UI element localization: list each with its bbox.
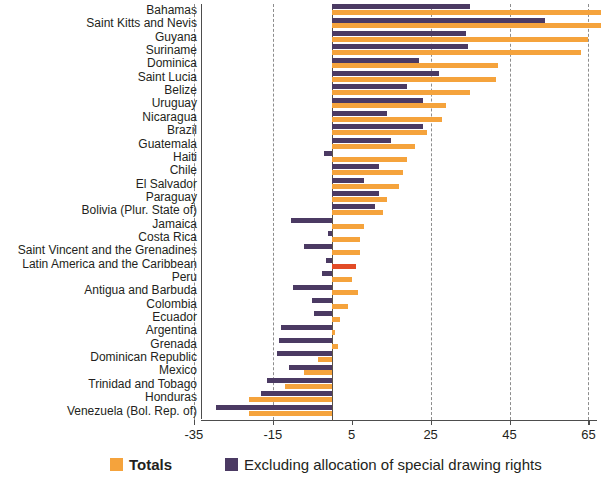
category-label: Dominican Republic (90, 351, 197, 363)
legend-swatch-purple-icon (225, 458, 238, 471)
tick-mark--15 (273, 420, 274, 425)
bar-excluding-sdr (314, 311, 332, 316)
bar-totals (332, 264, 356, 269)
bar-excluding-sdr (332, 71, 439, 76)
bar-row: Dominica (0, 57, 604, 70)
bar-excluding-sdr (326, 258, 332, 263)
bar-excluding-sdr (322, 271, 332, 276)
category-label: Grenada (150, 338, 197, 350)
bar-totals (332, 330, 335, 335)
bar-row: Paraguay (0, 191, 604, 204)
category-label: Saint Vincent and the Grenadines (18, 244, 197, 256)
category-label: Suriname (146, 44, 197, 56)
bar-row: El Salvador (0, 178, 604, 191)
bar-totals (332, 277, 352, 282)
category-label: Antigua and Barbuda (84, 284, 197, 296)
category-label: Haiti (173, 151, 197, 163)
category-label: Colombia (146, 298, 197, 310)
bar-rows: BahamasSaint Kitts and NevisGuyanaSurina… (0, 4, 604, 419)
x-tick-label: 65 (581, 427, 595, 442)
category-label: Uruguay (152, 97, 197, 109)
bar-totals (332, 23, 601, 28)
bar-totals (332, 37, 588, 42)
x-tick-label: -35 (185, 427, 204, 442)
bar-excluding-sdr (332, 4, 470, 9)
bar-totals (332, 117, 442, 122)
bar-totals (332, 50, 581, 55)
bar-row: Brazil (0, 124, 604, 137)
bar-totals (332, 237, 360, 242)
bar-excluding-sdr (267, 378, 332, 383)
bar-totals (332, 317, 340, 322)
category-label: Trinidad and Tobago (88, 378, 197, 390)
bar-totals (332, 130, 427, 135)
bar-row: Nicaragua (0, 111, 604, 124)
category-label: Guyana (155, 31, 197, 43)
category-label: Bolivia (Plur. State of) (82, 204, 197, 216)
bar-chart: -35-155254565 BahamasSaint Kitts and Nev… (0, 0, 604, 479)
bar-excluding-sdr (332, 138, 391, 143)
bar-totals (332, 144, 415, 149)
bar-excluding-sdr (332, 124, 423, 129)
bar-row: Haiti (0, 151, 604, 164)
category-label: Guatemala (138, 138, 197, 150)
bar-excluding-sdr (332, 111, 387, 116)
legend-label-totals: Totals (129, 456, 172, 473)
x-tick-label: 5 (348, 427, 355, 442)
bar-row: Colombia (0, 298, 604, 311)
bar-row: Jamaica (0, 218, 604, 231)
bar-totals (332, 90, 470, 95)
category-label: Dominica (147, 57, 197, 69)
category-label: Argentina (146, 324, 197, 336)
bar-row: Antigua and Barbuda (0, 284, 604, 297)
category-label: Chile (170, 164, 197, 176)
category-label: Costa Rica (138, 231, 197, 243)
bar-excluding-sdr (291, 218, 332, 223)
category-label: Jamaica (152, 218, 197, 230)
category-label: Peru (172, 271, 197, 283)
bar-row: Saint Vincent and the Grenadines (0, 244, 604, 257)
bar-excluding-sdr (332, 178, 364, 183)
category-label: Latin America and the Caribbean (22, 258, 197, 270)
bar-totals (332, 250, 360, 255)
bar-row: Trinidad and Tobago (0, 378, 604, 391)
bar-row: Uruguay (0, 97, 604, 110)
bar-excluding-sdr (328, 231, 332, 236)
bar-row: Grenada (0, 338, 604, 351)
x-tick-label: 45 (502, 427, 516, 442)
category-label: Paraguay (146, 191, 197, 203)
legend-item-excluding-sdr[interactable]: Excluding allocation of special drawing … (225, 456, 542, 473)
bar-row: Venezuela (Bol. Rep. of) (0, 405, 604, 418)
bar-totals (332, 157, 407, 162)
bar-row: Saint Lucia (0, 71, 604, 84)
bar-excluding-sdr (293, 285, 332, 290)
bar-row: Suriname (0, 44, 604, 57)
bar-excluding-sdr (324, 151, 332, 156)
category-label: Mexico (159, 364, 197, 376)
bar-excluding-sdr (332, 98, 423, 103)
x-axis-line (201, 420, 597, 421)
tick-mark-45 (510, 420, 511, 425)
bar-row: Saint Kitts and Nevis (0, 17, 604, 30)
x-tick-label: 25 (423, 427, 437, 442)
bar-row: Latin America and the Caribbean (0, 258, 604, 271)
legend-item-totals[interactable]: Totals (110, 456, 172, 473)
bar-row: Mexico (0, 364, 604, 377)
bar-totals (332, 10, 601, 15)
bar-totals (304, 370, 332, 375)
bar-totals (332, 304, 348, 309)
category-label: Honduras (145, 391, 197, 403)
bar-excluding-sdr (332, 191, 379, 196)
bar-totals (249, 411, 332, 416)
bar-row: Argentina (0, 324, 604, 337)
x-tick-label: -15 (263, 427, 282, 442)
bar-excluding-sdr (261, 391, 332, 396)
bar-totals (318, 357, 332, 362)
category-label: El Salvador (136, 178, 197, 190)
bar-totals (332, 224, 364, 229)
bar-totals (332, 290, 358, 295)
bar-totals (332, 197, 387, 202)
bar-excluding-sdr (281, 325, 332, 330)
bar-excluding-sdr (279, 338, 332, 343)
category-label: Belize (164, 84, 197, 96)
